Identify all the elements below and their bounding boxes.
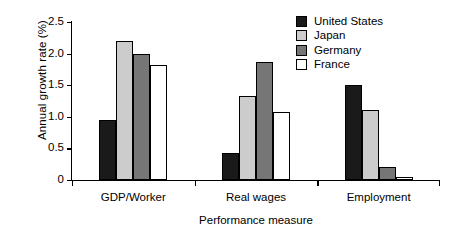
bar-france-real-wages	[273, 112, 290, 180]
legend-label: France	[314, 59, 350, 71]
legend-item: Germany	[296, 43, 383, 58]
y-tick-label: 1.5	[48, 79, 64, 91]
legend-swatch-icon	[296, 30, 307, 41]
bar-germany-employment	[379, 167, 396, 180]
y-tick-mark	[67, 54, 72, 55]
bar-germany-gdp-worker	[133, 54, 150, 180]
legend-swatch-icon	[296, 16, 307, 27]
y-tick-label: 2.0	[48, 48, 64, 60]
x-tick-mark	[317, 181, 318, 186]
bar-france-employment	[396, 177, 413, 180]
y-tick-mark	[67, 117, 72, 118]
bar-japan-real-wages	[239, 96, 256, 180]
x-category-label: GDP/Worker	[101, 191, 166, 203]
legend-item: France	[296, 58, 383, 73]
y-tick-mark	[67, 22, 72, 23]
bar-japan-gdp-worker	[116, 41, 133, 180]
y-tick-label: 0.5	[48, 143, 64, 155]
bar-germany-real-wages	[256, 62, 273, 180]
y-tick-mark	[67, 85, 72, 86]
legend-item: United States	[296, 14, 383, 29]
y-tick-label: 2.5	[48, 16, 64, 28]
x-category-label: Real wages	[226, 191, 286, 203]
legend-swatch-icon	[296, 59, 307, 70]
x-axis-title: Performance measure	[72, 214, 440, 226]
bar-japan-employment	[362, 110, 379, 180]
plot-area: 00.51.01.52.02.5	[72, 22, 440, 180]
legend-swatch-icon	[296, 45, 307, 56]
x-tick-mark	[195, 181, 196, 186]
y-tick-label: 1.0	[48, 111, 64, 123]
x-tick-mark	[72, 181, 73, 186]
y-axis-title: Annual growth rate (%)	[36, 0, 48, 160]
x-axis-ticks: GDP/WorkerReal wagesEmployment	[72, 181, 440, 211]
legend-item: Japan	[296, 29, 383, 44]
y-tick-mark	[67, 148, 72, 149]
bar-united-states-real-wages	[222, 153, 239, 180]
x-tick-mark	[439, 181, 440, 186]
legend-label: Germany	[314, 45, 361, 57]
bar-france-gdp-worker	[150, 65, 167, 180]
legend-label: United States	[314, 16, 383, 28]
y-tick-label: 0	[58, 174, 64, 186]
legend-label: Japan	[314, 30, 345, 42]
bar-united-states-employment	[345, 85, 362, 180]
bar-united-states-gdp-worker	[99, 120, 116, 180]
bar-chart-figure: Annual growth rate (%) 00.51.01.52.02.5 …	[0, 0, 452, 238]
chart-legend: United StatesJapanGermanyFrance	[296, 14, 383, 72]
x-category-label: Employment	[347, 191, 411, 203]
